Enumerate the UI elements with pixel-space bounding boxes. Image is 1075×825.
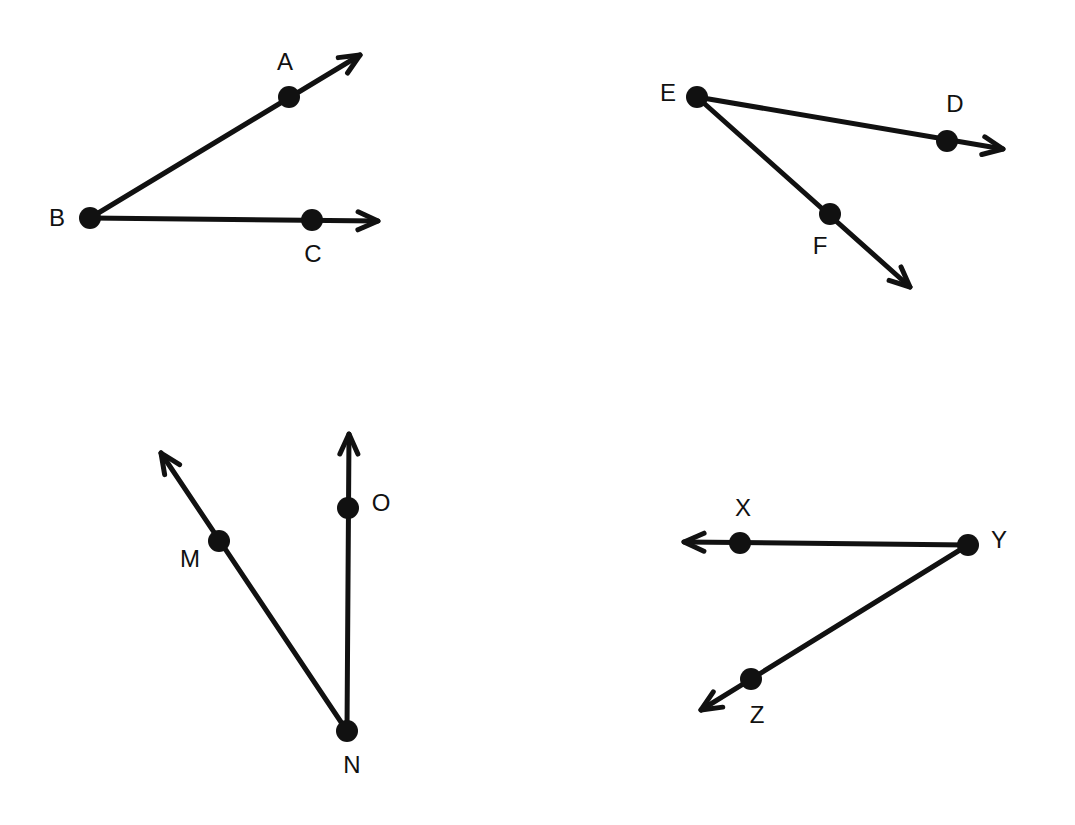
ray-NM <box>161 453 347 731</box>
angles-diagram: ACB DFE MON XZY <box>0 0 1075 825</box>
ray-YX <box>684 542 968 545</box>
vertex-label-N: N <box>343 751 360 778</box>
vertex-E <box>686 86 708 108</box>
point-X <box>729 532 751 554</box>
vertex-Y <box>957 534 979 556</box>
point-A <box>278 86 300 108</box>
vertex-label-B: B <box>49 204 65 231</box>
point-label-D: D <box>946 90 963 117</box>
ray-BC <box>90 218 378 221</box>
angle-mno-group: MON <box>161 434 390 778</box>
angle-xyz-group: XZY <box>684 494 1007 728</box>
angle-abc-group: ACB <box>49 48 378 267</box>
ray-YZ <box>701 545 968 710</box>
point-C <box>301 209 323 231</box>
ray-BA <box>90 55 360 218</box>
point-label-A: A <box>277 48 293 75</box>
point-label-Z: Z <box>750 701 765 728</box>
angle-def-group: DFE <box>660 79 1003 287</box>
point-label-O: O <box>372 489 391 516</box>
point-M <box>208 530 230 552</box>
ray-NO <box>347 434 349 731</box>
vertex-label-E: E <box>660 79 676 106</box>
point-Z <box>740 668 762 690</box>
point-label-C: C <box>304 240 321 267</box>
point-label-X: X <box>735 494 751 521</box>
point-F <box>819 203 841 225</box>
point-D <box>936 130 958 152</box>
point-label-F: F <box>813 232 828 259</box>
point-O <box>337 497 359 519</box>
vertex-N <box>336 720 358 742</box>
point-label-M: M <box>180 545 200 572</box>
vertex-B <box>79 207 101 229</box>
vertex-label-Y: Y <box>991 526 1007 553</box>
